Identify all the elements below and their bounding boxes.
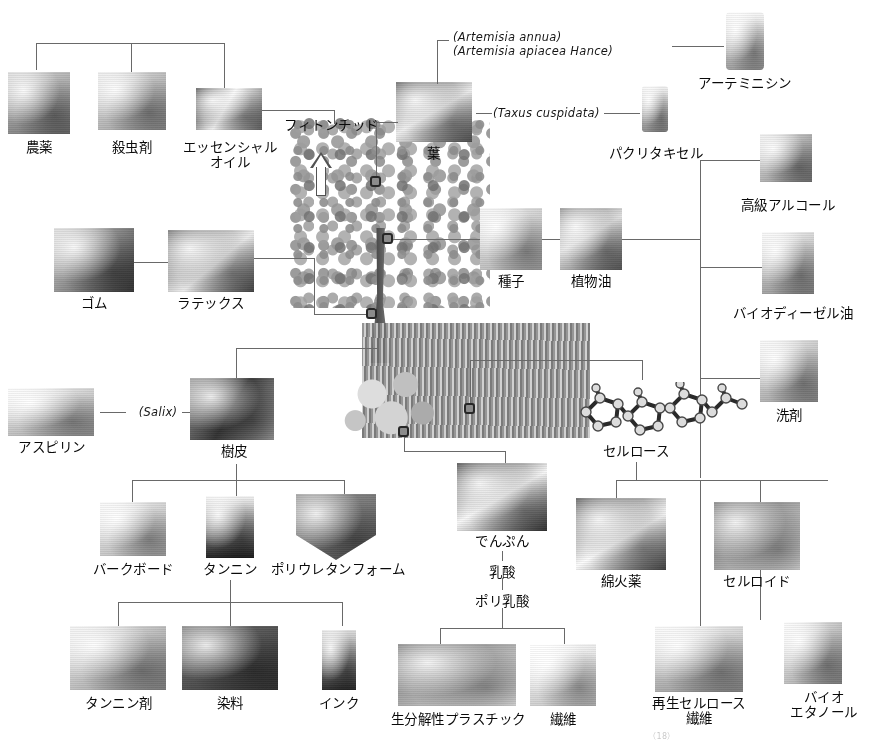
photo-bioethanol-can (784, 622, 842, 684)
connector (262, 110, 334, 111)
photo-insecticide (98, 72, 166, 130)
connector (616, 480, 828, 481)
photo-biodegradable-plastic (398, 644, 516, 706)
connector (230, 580, 231, 602)
connector (314, 258, 315, 314)
photo-latex-tapping (168, 230, 254, 292)
connector (100, 412, 126, 413)
photo-regenerated-cellulose-fiber (655, 626, 743, 692)
label-polylactic-acid: ポリ乳酸 (452, 590, 552, 610)
photo-ink-bottle (322, 630, 356, 690)
connector (502, 578, 503, 590)
connector (404, 451, 505, 452)
connector (236, 464, 237, 480)
label-celluloid: セルロイド (710, 574, 804, 589)
photo-gum-products (54, 228, 134, 292)
scientific-name-salix: (Salix) (128, 405, 188, 419)
label-dye: 染料 (184, 696, 276, 711)
connector (700, 480, 701, 502)
connector (230, 602, 231, 626)
tree-node-latex (366, 308, 377, 319)
connector (132, 480, 133, 502)
connector (393, 239, 480, 240)
label-seed: 種子 (480, 274, 542, 289)
photo-biodiesel-bottles (762, 232, 814, 294)
label-satchuzai: 殺虫剤 (98, 140, 166, 155)
label-cellulose: セルロース (580, 444, 692, 459)
photo-tannin-pouch (206, 496, 254, 558)
label-higher-alcohol: 高級アルコール (718, 198, 858, 213)
connector (437, 40, 449, 41)
connector (236, 348, 237, 378)
label-tannin-agent: タンニン剤 (64, 696, 174, 711)
label-biodegradable-plastic: 生分解性プラスチック (384, 712, 532, 727)
connector (470, 360, 471, 403)
phytoncide-up-arrow-icon (310, 152, 332, 196)
label-bark: 樹皮 (192, 444, 276, 459)
connector (564, 628, 565, 644)
tree-node-fruit (398, 426, 409, 437)
photo-bark (190, 378, 274, 440)
connector (636, 462, 637, 480)
diagram-canvas: 農薬 殺虫剤 エッセンシャル オイル フィトンチッド 葉 (Artemisia … (0, 0, 876, 750)
connector (376, 122, 398, 123)
label-tannin: タンニン (192, 562, 268, 577)
connector (502, 608, 503, 628)
connector (376, 122, 377, 180)
connector (118, 602, 119, 626)
label-artemisinin: アーテミニシン (686, 76, 804, 91)
label-fiber: 繊維 (530, 712, 596, 727)
photo-guncotton (576, 498, 666, 570)
connector (604, 113, 640, 114)
connector (437, 40, 438, 84)
label-starch: でんぷん (457, 534, 547, 549)
label-phytoncide: フィトンチッド (284, 118, 404, 133)
label-detergent: 洗剤 (754, 408, 824, 423)
photo-seed (480, 208, 542, 270)
label-regenerated-cellulose-fiber: 再生セルロース 繊維 (640, 696, 758, 726)
connector (672, 46, 724, 47)
label-guncotton: 綿火薬 (576, 574, 666, 589)
connector (404, 437, 405, 451)
photo-detergent (760, 340, 818, 402)
photo-celluloid (714, 502, 800, 570)
connector (342, 602, 343, 626)
connector (132, 480, 344, 481)
connector (700, 502, 701, 626)
label-aspirin: アスピリン (6, 440, 98, 455)
central-plant-collage (290, 118, 590, 468)
label-latex: ラテックス (168, 296, 254, 311)
photo-leaf (396, 82, 472, 142)
photo-higher-alcohol-can (760, 134, 812, 182)
tree-node-leaf (370, 176, 381, 187)
connector (616, 480, 617, 498)
figure-credit: （18） (648, 730, 676, 741)
connector (542, 239, 560, 240)
photo-fiber-tshirt (530, 644, 596, 706)
connector (236, 348, 378, 349)
label-bioethanol: バイオ エタノール (776, 690, 872, 720)
label-gum: ゴム (54, 296, 134, 311)
connector (440, 628, 564, 629)
connector (254, 258, 314, 259)
label-paclitaxel: パクリタキセル (600, 146, 712, 161)
connector (502, 551, 503, 561)
photo-essential-oil (196, 88, 262, 130)
connector (36, 43, 224, 44)
label-bark-board: バークボード (84, 562, 182, 577)
connector (440, 628, 441, 644)
photo-tannin-agent (70, 626, 166, 690)
tree-node-cellulose (464, 403, 475, 414)
label-noyaku: 農薬 (8, 140, 70, 155)
connector (700, 378, 762, 379)
label-vegetable-oil: 植物油 (560, 274, 622, 289)
connector (470, 360, 642, 361)
photo-aspirin-pack (8, 388, 94, 436)
connector (622, 239, 700, 240)
label-polyurethane-foam: ポリウレタンフォーム (268, 562, 408, 577)
photo-vegetable-oil (560, 208, 622, 270)
connector (700, 160, 760, 161)
fruit-harvest-image (336, 356, 456, 451)
connector (314, 314, 366, 315)
cellulose-molecule-image (572, 382, 748, 440)
